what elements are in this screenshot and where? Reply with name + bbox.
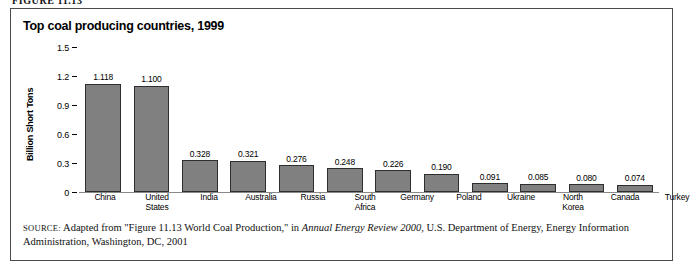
bar-slot: 0.276 (272, 47, 320, 192)
bar-value-label: 0.080 (576, 174, 596, 183)
bar-slot: 0.085 (514, 47, 562, 192)
y-axis-tick-label: 0.3 (57, 159, 69, 169)
x-axis-label-south-africa: South Africa (339, 193, 391, 212)
y-axis-tick: 0.9 (57, 101, 77, 111)
y-axis-tick: 0.6 (57, 130, 77, 140)
bar-slot: 1.100 (127, 47, 175, 192)
bar-value-label: 0.091 (480, 173, 500, 182)
y-axis-tick-label: 1.2 (57, 72, 69, 82)
y-axis-tick-label: 0.9 (57, 101, 69, 111)
y-axis-tick-mark (72, 192, 77, 193)
bar-australia[interactable] (230, 161, 266, 192)
x-axis-labels: ChinaUnited StatesIndiaAustraliaRussiaSo… (79, 193, 694, 212)
bar-value-label: 1.100 (141, 75, 161, 84)
bar-united-states[interactable] (134, 86, 170, 192)
bar-russia[interactable] (279, 165, 315, 192)
x-axis-label-united-states: United States (131, 193, 183, 212)
bar-slot: 0.226 (369, 47, 417, 192)
x-axis-label-turkey: Turkey (651, 193, 694, 212)
bar-value-label: 0.190 (431, 163, 451, 172)
bar-poland[interactable] (424, 174, 460, 192)
bar-value-label: 0.276 (286, 155, 306, 164)
y-axis-tick: 0 (64, 188, 77, 198)
bar-value-label: 0.085 (528, 173, 548, 182)
figure-box: Top coal producing countries, 1999 Billi… (10, 8, 673, 261)
y-axis-ticks: 00.30.60.91.21.5 (39, 47, 77, 193)
bar-slot: 0.321 (224, 47, 272, 192)
x-axis-label-australia: Australia (235, 193, 287, 212)
bar-china[interactable] (85, 84, 121, 192)
y-axis-tick-mark (72, 47, 77, 48)
chart-plot-region: Billion Short Tons 00.30.60.91.21.5 1.11… (23, 47, 659, 207)
x-axis-label-germany: Germany (391, 193, 443, 212)
x-axis-label-ukraine: Ukraine (495, 193, 547, 212)
x-axis-label-india: India (183, 193, 235, 212)
bar-slot: 1.118 (79, 47, 127, 192)
bar-slot: 0.190 (417, 47, 465, 192)
bars-area: 1.1181.1000.3280.3210.2760.2480.2260.190… (79, 47, 659, 193)
bar-value-label: 0.226 (383, 160, 403, 169)
x-axis-label-poland: Poland (443, 193, 495, 212)
y-axis-tick-label: 1.5 (57, 43, 69, 53)
x-axis-label-north-korea: North Korea (547, 193, 599, 212)
bar-india[interactable] (182, 160, 218, 192)
bar-canada[interactable] (569, 184, 605, 192)
bar-south-africa[interactable] (327, 168, 363, 192)
bar-value-label: 0.328 (190, 150, 210, 159)
y-axis-tick-mark (72, 76, 77, 77)
bar-value-label: 0.248 (335, 158, 355, 167)
source-label: SOURCE: (23, 223, 61, 233)
y-axis-tick-mark (72, 163, 77, 164)
x-axis-label-russia: Russia (287, 193, 339, 212)
bar-slot: 0.080 (562, 47, 610, 192)
bar-value-label: 1.118 (93, 73, 113, 82)
figure-caption-sliver: FIGURE 11.13 (12, 0, 83, 4)
y-axis-tick-label: 0.6 (57, 130, 69, 140)
bar-value-label: 0.321 (238, 150, 258, 159)
y-axis-tick-label: 0 (64, 188, 69, 198)
y-axis-tick: 1.2 (57, 72, 77, 82)
bar-slot: 0.248 (321, 47, 369, 192)
bar-ukraine[interactable] (472, 183, 508, 192)
bar-turkey[interactable] (617, 185, 653, 192)
bar-slot: 0.328 (176, 47, 224, 192)
y-axis-title: Billion Short Tons (23, 69, 37, 179)
bar-germany[interactable] (375, 170, 411, 192)
y-axis-tick-mark (72, 105, 77, 106)
chart-title: Top coal producing countries, 1999 (23, 19, 224, 33)
y-axis-tick: 0.3 (57, 159, 77, 169)
bars-row: 1.1181.1000.3280.3210.2760.2480.2260.190… (79, 47, 659, 192)
source-text-part1: Adapted from "Figure 11.13 World Coal Pr… (61, 222, 302, 233)
x-axis-label-canada: Canada (599, 193, 651, 212)
bar-slot: 0.091 (466, 47, 514, 192)
x-axis-label-china: China (79, 193, 131, 212)
bar-value-label: 0.074 (625, 174, 645, 183)
bar-slot: 0.074 (611, 47, 659, 192)
source-publication-title: Annual Energy Review 2000 (302, 222, 421, 233)
source-note: SOURCE: Adapted from "Figure 11.13 World… (23, 221, 659, 248)
y-axis-tick: 1.5 (57, 43, 77, 53)
y-axis-tick-mark (72, 134, 77, 135)
bar-north-korea[interactable] (520, 184, 556, 192)
